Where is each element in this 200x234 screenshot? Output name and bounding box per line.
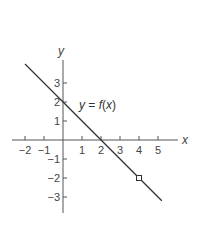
function-label: y = f(x) <box>78 98 116 112</box>
axes <box>12 60 178 213</box>
x-tick-label: 1 <box>79 144 85 156</box>
x-ticks: −2−112345 <box>19 136 161 156</box>
function-graph: −2−112345 321−1−2−3 x y y = f(x) <box>0 0 200 234</box>
fn-label-eq: = <box>85 98 99 112</box>
y-axis-label: y <box>57 44 65 58</box>
open-circle-point <box>137 176 142 181</box>
y-tick-label: −1 <box>47 153 60 165</box>
fn-label-close: ) <box>112 98 116 112</box>
x-tick-label: 5 <box>155 144 161 156</box>
x-tick-label: −2 <box>19 144 32 156</box>
y-tick-label: 1 <box>54 115 60 127</box>
x-tick-label: 2 <box>98 144 104 156</box>
x-tick-label: 3 <box>117 144 123 156</box>
y-tick-label: 3 <box>54 77 60 89</box>
y-tick-label: −3 <box>47 191 60 203</box>
y-tick-label: −2 <box>47 172 60 184</box>
x-tick-label: 4 <box>136 144 142 156</box>
x-axis-label: x <box>181 133 189 147</box>
